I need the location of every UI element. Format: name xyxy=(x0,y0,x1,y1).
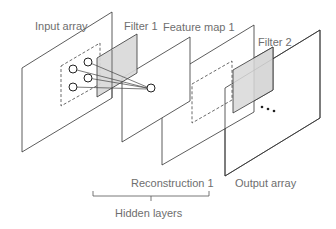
input-neuron xyxy=(69,83,77,91)
hidden-layers-brace xyxy=(93,191,209,196)
label-reconstruction-1: Reconstruction 1 xyxy=(131,177,214,189)
input-neuron xyxy=(69,65,77,73)
label-output-array: Output array xyxy=(235,177,297,189)
label-hidden-layers: Hidden layers xyxy=(115,207,183,219)
label-feature-map-1: Feature map 1 xyxy=(163,21,235,33)
label-filter-2: Filter 2 xyxy=(258,36,292,48)
label-filter-1: Filter 1 xyxy=(124,20,158,32)
feature-neuron xyxy=(147,84,155,92)
diagram-canvas: Input array Filter 1 Feature map 1 Filte… xyxy=(0,0,336,229)
input-neuron xyxy=(84,74,92,82)
label-input-array: Input array xyxy=(35,20,88,32)
input-neuron xyxy=(84,58,92,66)
